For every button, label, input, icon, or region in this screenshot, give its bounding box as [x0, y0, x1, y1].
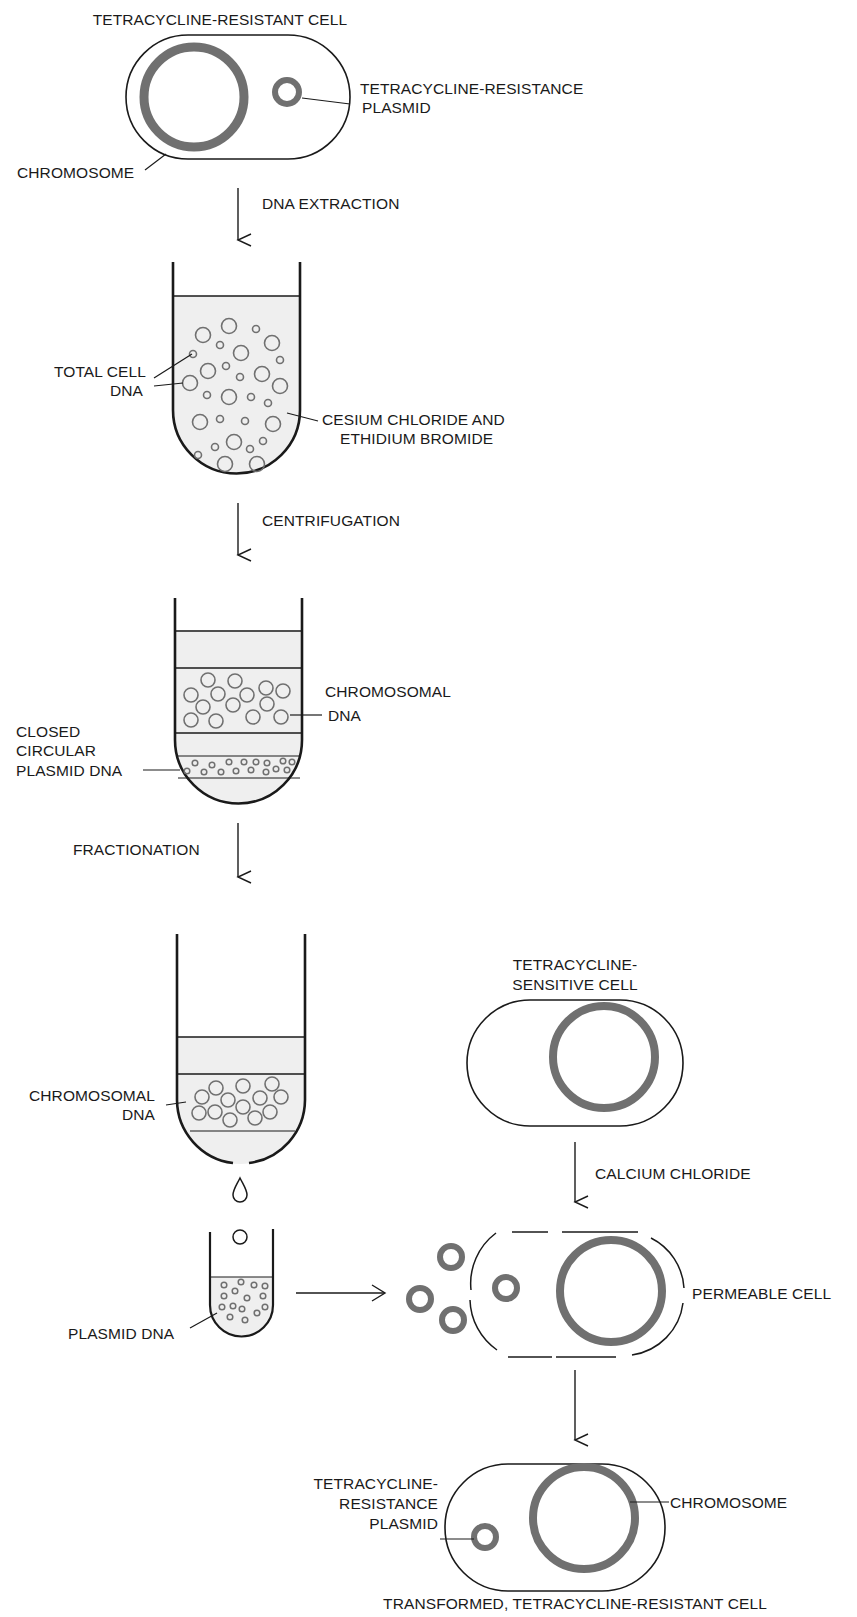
tube3-chromosomal-label: CHROMOSOMAL [10, 1086, 155, 1105]
permeable-cell-label: PERMEABLE CELL [692, 1284, 831, 1303]
step-centrifugation-label: CENTRIFUGATION [262, 511, 400, 530]
resistant-cell-title: TETRACYCLINE-RESISTANT CELL [20, 10, 420, 29]
plasmid-label: TETRACYCLINE-RESISTANCE [360, 79, 583, 98]
final-chromosome-label: CHROMOSOME [670, 1493, 787, 1512]
sensitive-cell-title-2: SENSITIVE CELL [480, 975, 670, 994]
transformed-cell-title: TRANSFORMED, TETRACYCLINE-RESISTANT CELL [300, 1594, 850, 1613]
plasmid-band-label: CLOSED [16, 722, 80, 741]
plasmid-icon [275, 80, 299, 104]
final-plasmid-label: TETRACYCLINE- [290, 1474, 438, 1493]
diagram-canvas [0, 0, 857, 1617]
sensitive-cell-title: TETRACYCLINE- [480, 955, 670, 974]
total-dna-label: TOTAL CELL [20, 362, 146, 381]
total-dna-label-2: DNA [20, 381, 143, 400]
transformed-cell [440, 1464, 669, 1591]
tube-gradient [143, 598, 322, 804]
resistant-cell [126, 35, 350, 170]
final-plasmid-label-3: PLASMID [290, 1514, 438, 1533]
medium-label-2: ETHIDIUM BROMIDE [340, 429, 493, 448]
tube-plasmid-collect [190, 1229, 273, 1337]
chromosome-label: CHROMOSOME [17, 163, 134, 182]
step-dna-extraction-label: DNA EXTRACTION [262, 194, 399, 213]
plasmid-band-label-3: PLASMID DNA [16, 761, 122, 780]
tube-total-dna [154, 262, 318, 474]
tube3-chromosomal-label-2: DNA [10, 1105, 155, 1124]
sensitive-cell [467, 1000, 683, 1126]
tube-fractionating [166, 934, 305, 1164]
chromosomal-dna-label: CHROMOSOMAL [325, 682, 451, 701]
step-calcium-chloride-label: CALCIUM CHLORIDE [595, 1164, 751, 1183]
plasmid-band-label-2: CIRCULAR [16, 741, 96, 760]
medium-label: CESIUM CHLORIDE AND [322, 410, 505, 429]
final-plasmid-label-2: RESISTANCE [290, 1494, 438, 1513]
plasmid-dna-label: PLASMID DNA [68, 1324, 174, 1343]
plasmid-label-2: PLASMID [362, 98, 431, 117]
chromosome-icon [144, 47, 244, 147]
droplet-icon [233, 1178, 247, 1202]
permeable-cell [409, 1232, 684, 1357]
step-fractionation-label: FRACTIONATION [73, 840, 200, 859]
chromosomal-dna-label-2: DNA [328, 706, 361, 725]
